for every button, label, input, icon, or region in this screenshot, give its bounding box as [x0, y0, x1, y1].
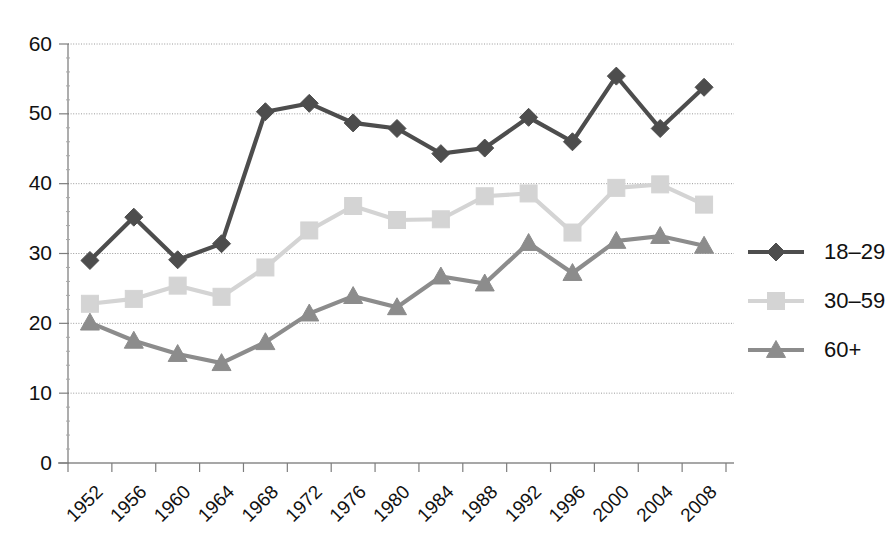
data-point-marker-triangle	[519, 234, 538, 251]
legend-entry-60-[interactable]: 60+	[748, 337, 861, 362]
data-point-marker-square	[257, 259, 274, 276]
data-point-marker-square	[564, 224, 581, 241]
line-chart: 0102030405060 19521956196019641968197219…	[0, 0, 888, 559]
data-point-marker-diamond	[213, 235, 231, 253]
y-tick-label: 0	[40, 451, 52, 474]
x-tick-label: 1964	[194, 481, 239, 526]
x-tick-label: 1976	[325, 481, 370, 526]
legend-label: 30–59	[824, 288, 885, 313]
legend: 18–2930–5960+	[748, 239, 885, 362]
y-tick-labels-group: 0102030405060	[29, 32, 52, 474]
data-point-marker-triangle	[344, 287, 363, 304]
data-point-marker-diamond	[432, 145, 450, 163]
x-tick-label: 2004	[632, 481, 677, 526]
x-tick-label: 1980	[369, 481, 414, 526]
data-point-marker-square	[169, 277, 186, 294]
x-tick-label: 1972	[281, 481, 326, 526]
x-tickmarks-group	[68, 463, 726, 472]
series-60-	[80, 227, 713, 371]
data-point-marker-square	[389, 211, 406, 228]
legend-label: 60+	[824, 337, 861, 362]
x-tick-label: 1996	[545, 481, 590, 526]
x-tick-label: 1988	[457, 481, 502, 526]
data-point-marker-square	[696, 196, 713, 213]
x-tick-label: 1968	[237, 481, 282, 526]
legend-label: 18–29	[824, 239, 885, 264]
x-tick-label: 2008	[676, 481, 721, 526]
y-tick-label: 50	[29, 101, 52, 124]
data-point-marker-square	[768, 293, 785, 310]
x-tick-label: 1960	[150, 481, 195, 526]
legend-entry-30-59[interactable]: 30–59	[748, 288, 885, 313]
x-tick-label: 1956	[106, 481, 151, 526]
series-layer	[80, 67, 713, 370]
data-point-marker-square	[125, 290, 142, 307]
y-tick-label: 60	[29, 32, 52, 55]
data-point-marker-diamond	[767, 243, 785, 261]
data-point-marker-square	[476, 188, 493, 205]
data-point-marker-square	[432, 211, 449, 228]
x-tick-label: 1992	[501, 481, 546, 526]
data-point-marker-triangle	[80, 313, 99, 330]
x-tick-label: 1952	[62, 481, 107, 526]
y-tick-label: 40	[29, 171, 52, 194]
data-point-marker-diamond	[300, 94, 318, 112]
series-line	[90, 76, 704, 260]
y-tick-label: 20	[29, 311, 52, 334]
data-point-marker-diamond	[344, 114, 362, 132]
data-point-marker-square	[520, 185, 537, 202]
y-tick-label: 30	[29, 241, 52, 264]
data-point-marker-square	[301, 222, 318, 239]
x-tick-label: 2000	[588, 481, 633, 526]
data-point-marker-square	[652, 176, 669, 193]
data-point-marker-diamond	[388, 119, 406, 137]
data-point-marker-triangle	[256, 333, 275, 350]
data-point-marker-diamond	[256, 103, 274, 121]
chart-canvas: 0102030405060 19521956196019641968197219…	[0, 0, 888, 559]
x-tick-label: 1984	[413, 481, 458, 526]
x-tick-labels-group: 1952195619601964196819721976198019841988…	[62, 481, 721, 526]
legend-entry-18-29[interactable]: 18–29	[748, 239, 885, 264]
data-point-marker-square	[608, 179, 625, 196]
data-point-marker-square	[81, 295, 98, 312]
data-point-marker-square	[213, 288, 230, 305]
y-tick-label: 10	[29, 381, 52, 404]
data-point-marker-square	[345, 198, 362, 215]
